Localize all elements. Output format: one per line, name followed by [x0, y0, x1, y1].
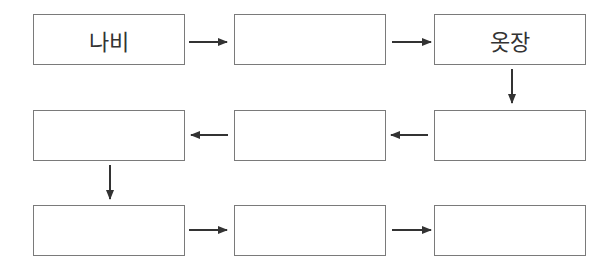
- arrows-layer: [0, 0, 616, 273]
